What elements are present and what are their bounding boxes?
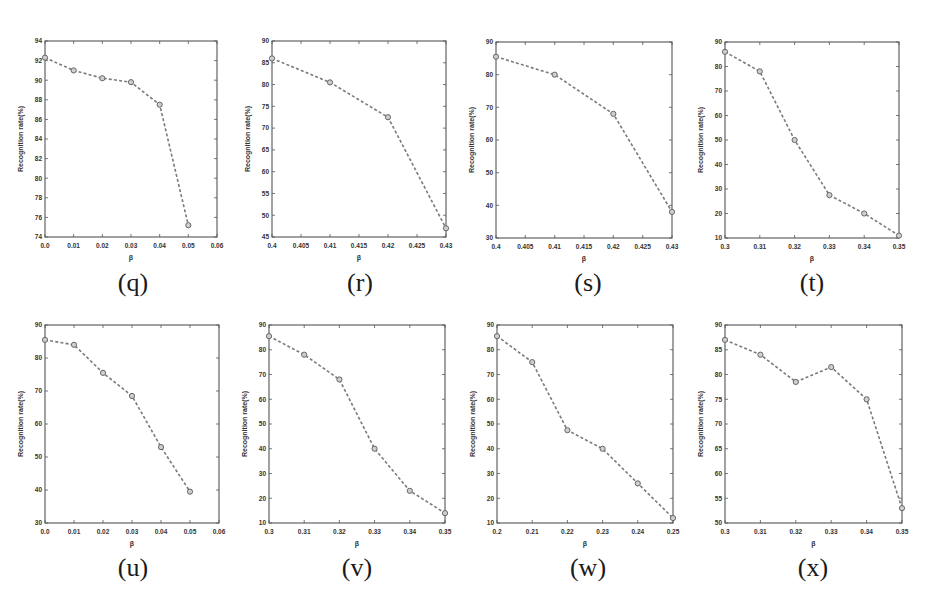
y-tick-label: 60 (715, 470, 723, 477)
data-series-line (725, 340, 902, 508)
y-tick-label: 85 (715, 346, 723, 353)
data-point-marker (829, 364, 834, 369)
data-point-marker (899, 506, 904, 511)
data-point-marker (722, 337, 727, 342)
plot-frame (725, 325, 902, 523)
y-tick-label: 75 (715, 396, 723, 403)
x-tick-label: 0.31 (754, 528, 767, 535)
x-tick-label: 0.3 (720, 528, 729, 535)
x-tick-label: 0.33 (825, 528, 838, 535)
x-tick-label: 0.34 (860, 528, 873, 535)
x-tick-label: 0.35 (896, 528, 909, 535)
chart-caption-x: (x) (773, 553, 853, 583)
y-tick-label: 70 (715, 420, 723, 427)
y-axis-label: Recognition rate(%) (697, 391, 705, 457)
data-point-marker (758, 352, 763, 357)
y-tick-label: 80 (715, 371, 723, 378)
x-axis-label: β (811, 540, 816, 548)
data-point-marker (864, 397, 869, 402)
y-tick-label: 65 (715, 445, 723, 452)
chart-x: 0.30.310.320.330.340.3550556065707580859… (0, 0, 934, 614)
y-tick-label: 90 (715, 321, 723, 328)
y-tick-label: 50 (715, 519, 723, 526)
y-tick-label: 55 (715, 495, 723, 502)
data-point-marker (793, 379, 798, 384)
x-tick-label: 0.32 (789, 528, 802, 535)
